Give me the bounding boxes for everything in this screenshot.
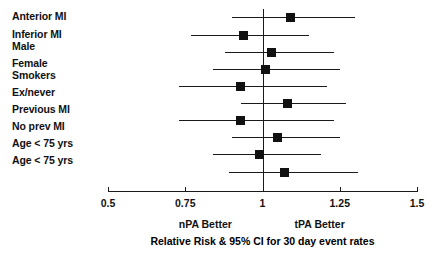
chart-title: Relative Risk & 95% CI for 30 day event … [150, 235, 374, 247]
x-axis-tick [185, 187, 186, 192]
confidence-interval-line [179, 86, 327, 87]
point-estimate-marker [236, 82, 245, 91]
plot-area [0, 0, 437, 200]
confidence-interval-line [179, 120, 334, 121]
x-axis-tick [417, 187, 418, 192]
confidence-interval-line [213, 69, 340, 70]
confidence-interval-line [232, 137, 340, 138]
forest-plot-figure: Anterior MIInferior MIMaleFemaleSmokersE… [0, 0, 437, 265]
point-estimate-marker [286, 13, 295, 22]
confidence-interval-line [229, 172, 359, 173]
point-estimate-marker [236, 116, 245, 125]
confidence-interval-line [213, 154, 321, 155]
point-estimate-marker [280, 168, 289, 177]
point-estimate-marker [239, 31, 248, 40]
point-estimate-marker [261, 65, 270, 74]
x-axis-tick-label: 0.75 [175, 197, 195, 209]
point-estimate-marker [267, 48, 276, 57]
point-estimate-marker [273, 133, 282, 142]
x-axis-tick [263, 187, 264, 192]
point-estimate-marker [283, 99, 292, 108]
left-direction-label: nPA Better [179, 218, 232, 230]
point-estimate-marker [255, 150, 264, 159]
x-axis-tick [340, 187, 341, 192]
x-axis-tick [108, 187, 109, 192]
x-axis-tick-label: 0.5 [101, 197, 116, 209]
x-axis-tick-label: 1.5 [410, 197, 425, 209]
x-axis-tick-label: 1 [260, 197, 266, 209]
right-direction-label: tPA Better [295, 218, 345, 230]
confidence-interval-line [191, 35, 308, 36]
null-reference-line [263, 9, 264, 191]
x-axis-tick-label: 1.25 [330, 197, 350, 209]
confidence-interval-line [225, 52, 333, 53]
confidence-interval-line [241, 103, 346, 104]
